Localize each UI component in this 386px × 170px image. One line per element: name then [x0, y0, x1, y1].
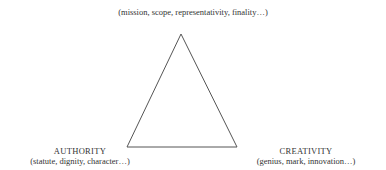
creativity-title: CREATIVITY [226, 146, 386, 156]
triangle-diagram [0, 0, 386, 170]
top-vertex-label: (mission, scope, representativity, final… [0, 7, 386, 17]
creativity-subtitle: (genius, mark, innovation…) [226, 156, 386, 166]
authority-title: AUTHORITY [0, 146, 160, 156]
triangle-shape [127, 34, 237, 147]
top-vertex-subtitle: (mission, scope, representativity, final… [0, 7, 386, 17]
authority-subtitle: (statute, dignity, character…) [0, 156, 160, 166]
left-vertex-label: AUTHORITY (statute, dignity, character…) [0, 146, 160, 166]
right-vertex-label: CREATIVITY (genius, mark, innovation…) [226, 146, 386, 166]
